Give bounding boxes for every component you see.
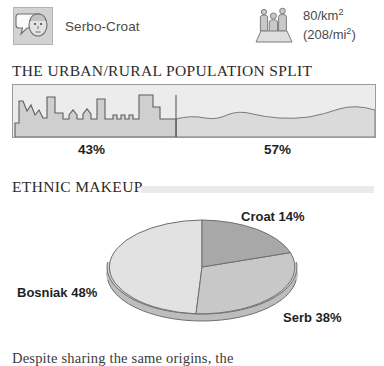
fact-row: Serbo-Croat 80/km2 (208/mi2)	[0, 0, 384, 52]
density-values: 80/km2 (208/mi2)	[303, 6, 356, 44]
population-density-fact: 80/km2 (208/mi2)	[254, 4, 356, 46]
pie-label-bosniak: Bosniak 48%	[17, 285, 97, 300]
urban-rural-svg	[13, 85, 375, 137]
ethnic-heading-rule	[141, 186, 374, 193]
body-text-line: Despite sharing the same origins, the	[12, 350, 378, 366]
speech-bubble-face-icon	[13, 7, 53, 45]
ethnic-makeup-pie-chart	[104, 210, 300, 336]
three-people-glyph	[254, 4, 294, 46]
rural-percent-label: 57%	[264, 142, 291, 157]
ethnic-makeup-heading: ETHNIC MAKEUP	[12, 178, 143, 196]
urban-rural-heading: THE URBAN/RURAL POPULATION SPLIT	[12, 62, 312, 80]
speech-bubble-face-glyph	[14, 8, 52, 44]
pie-svg	[104, 210, 300, 336]
language-fact: Serbo-Croat	[13, 7, 140, 45]
body-text-clipped: Despite sharing the same origins, the	[12, 350, 378, 366]
density-metric-exponent: 2	[338, 7, 343, 17]
density-metric: 80/km2	[303, 6, 356, 25]
urban-percent-label: 43%	[78, 142, 105, 157]
three-people-icon	[254, 4, 294, 46]
pie-label-croat: Croat 14%	[241, 209, 305, 224]
pie-top-face	[109, 220, 294, 314]
pie-label-serb: Serb 38%	[283, 310, 342, 325]
language-label: Serbo-Croat	[65, 19, 140, 34]
urban-rural-split-chart	[12, 84, 376, 138]
density-imperial: (208/mi2)	[303, 25, 356, 44]
